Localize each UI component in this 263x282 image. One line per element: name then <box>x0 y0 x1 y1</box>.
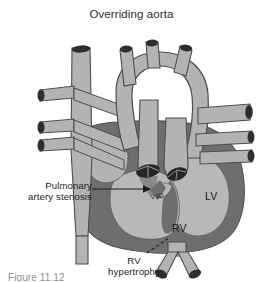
pulmonary-vein-3-opening <box>38 140 45 152</box>
label-pulmonary-artery-stenosis: Pulmonary artery stenosis <box>6 180 92 203</box>
label-right-ventricle: RV <box>172 222 187 234</box>
pulmonary-vein-2 <box>40 119 74 133</box>
heart-anatomy-illustration <box>0 0 263 282</box>
pulmonary-vein-3 <box>40 137 74 151</box>
label-rv-hypertrophy: RV hypertrophy <box>98 255 170 278</box>
descending-aorta-opening <box>245 105 253 119</box>
right-vessel-stub-2 <box>200 150 252 164</box>
descending-aorta <box>198 104 250 124</box>
ivc-trunk <box>76 236 88 264</box>
pulmonary-vein-2-opening <box>38 122 45 134</box>
label-left-ventricle: LV <box>205 190 217 202</box>
right-vessel-stub-1 <box>196 131 252 146</box>
figure-caption-partial: Figure 11.12 <box>8 272 65 281</box>
pulmonary-vein-1-opening <box>38 90 45 102</box>
figure-title: Overriding aorta <box>0 8 263 22</box>
tetralogy-of-fallot-figure: Overriding aorta Pulmonary artery stenos… <box>0 0 263 282</box>
right-vessel-stub-1-opening <box>248 131 255 143</box>
right-vessel-stub-2-opening <box>248 150 255 162</box>
